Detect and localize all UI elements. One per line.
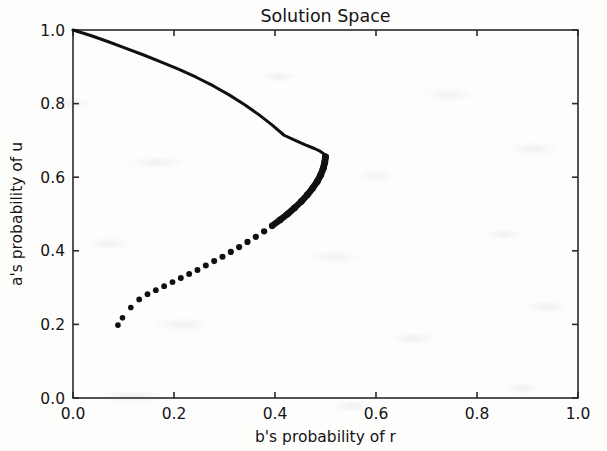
y-tick-label: 1.0	[40, 22, 65, 40]
lower-branch-marker	[115, 322, 121, 328]
solution-space-plot: 0.00.20.40.60.81.0 0.00.20.40.60.81.0 So…	[0, 0, 607, 451]
chart-figure: 0.00.20.40.60.81.0 0.00.20.40.60.81.0 So…	[0, 0, 607, 451]
y-axis-label: a's probability of u	[8, 142, 26, 286]
x-tick-label: 1.0	[566, 405, 591, 423]
lower-branch-marker	[170, 279, 176, 285]
lower-branch-marker	[211, 258, 217, 264]
lower-branch-marker	[128, 305, 134, 311]
x-tick-label: 0.0	[61, 405, 86, 423]
lower-branch-marker	[153, 287, 159, 293]
lower-branch-marker	[161, 283, 167, 289]
lower-branch-marker	[261, 228, 267, 234]
x-tick-label: 0.6	[364, 405, 389, 423]
x-tick-label: 0.8	[465, 405, 490, 423]
y-tick-label: 0.6	[40, 169, 65, 187]
x-tick-label: 0.2	[162, 405, 187, 423]
lower-branch-marker	[203, 263, 209, 269]
lower-branch-segment	[272, 220, 280, 226]
upper-branch-curve	[73, 30, 326, 157]
lower-branch-marker	[186, 271, 192, 277]
y-tick-label: 0.8	[40, 95, 65, 113]
x-axis-tick-labels: 0.00.20.40.60.81.0	[61, 405, 591, 423]
x-tick-label: 0.4	[263, 405, 288, 423]
x-axis-label: b's probability of r	[255, 428, 397, 446]
y-axis-ticks	[73, 30, 578, 398]
series-upper-branch	[73, 30, 326, 157]
y-tick-label: 0.0	[40, 390, 65, 408]
x-axis-ticks	[73, 30, 578, 398]
series-lower-branch	[115, 154, 329, 328]
y-tick-label: 0.4	[40, 242, 65, 260]
lower-branch-marker	[120, 315, 126, 321]
lower-branch-marker	[194, 267, 200, 273]
lower-branch-marker	[178, 275, 184, 281]
plot-frame	[73, 30, 578, 398]
lower-branch-marker	[236, 244, 242, 250]
lower-branch-marker	[253, 234, 259, 240]
lower-branch-marker	[244, 239, 250, 245]
y-tick-label: 0.2	[40, 316, 65, 334]
lower-branch-marker	[136, 297, 142, 303]
chart-title: Solution Space	[260, 6, 390, 26]
lower-branch-marker	[219, 254, 225, 260]
y-axis-tick-labels: 0.00.20.40.60.81.0	[40, 22, 65, 408]
lower-branch-marker	[228, 249, 234, 255]
lower-branch-marker	[145, 291, 151, 297]
